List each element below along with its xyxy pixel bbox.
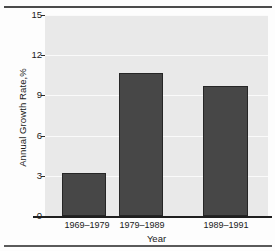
y-tick-label-15: 15 bbox=[16, 10, 42, 20]
bar-chart: Annual Growth Rate,% 15 12 9 6 3 0 bbox=[0, 8, 275, 244]
x-tick-labels: 1969–1979 1979–1989 1989–1991 bbox=[45, 220, 268, 234]
y-tick-label-3: 3 bbox=[16, 171, 42, 181]
x-axis-line bbox=[33, 216, 272, 218]
gridline-15 bbox=[45, 15, 268, 16]
x-axis-title: Year bbox=[45, 233, 268, 244]
y-tick-label-9: 9 bbox=[16, 90, 42, 100]
page-rule-bottom bbox=[4, 245, 272, 247]
y-tick-label-6: 6 bbox=[16, 131, 42, 141]
x-tick-label-1989-1991: 1989–1991 bbox=[178, 220, 274, 230]
y-tick-label-12: 12 bbox=[16, 50, 42, 60]
x-tick-label-1979-1989: 1979–1989 bbox=[94, 220, 190, 230]
plot-area bbox=[45, 15, 268, 216]
figure-page: Annual Growth Rate,% 15 12 9 6 3 0 bbox=[0, 0, 275, 251]
bar-1969-1979[interactable] bbox=[62, 173, 106, 216]
gridline-12 bbox=[45, 55, 268, 56]
bar-1989-1991[interactable] bbox=[203, 86, 248, 216]
bar-1979-1989[interactable] bbox=[119, 73, 163, 216]
